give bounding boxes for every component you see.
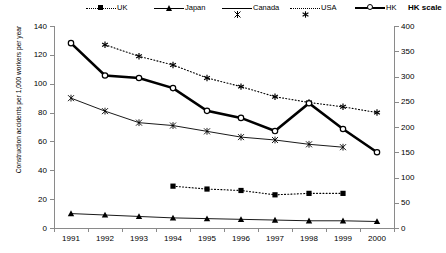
y-axis-left-line [54,26,55,228]
data-point-triangle [204,215,210,221]
series-hk [68,40,379,154]
legend-symbol-uk [86,4,116,13]
data-point-circle [374,150,379,155]
legend-item-japan: Japan [154,0,205,16]
legend-label-japan: Japan [185,4,205,12]
data-point-cross [68,95,74,102]
data-point-triangle [102,212,108,218]
series-plot-area [0,0,446,253]
x-axis-tick-label: 2000 [357,234,397,243]
data-point-asterisk [204,75,210,81]
y-axis-right-tick-label: 200 [401,123,427,132]
x-axis-tick [122,228,123,232]
y-axis-right-tick-label: 350 [401,47,427,56]
legend-label-hk: HK [386,4,396,12]
data-point-square [272,192,277,197]
x-axis-tick [292,228,293,232]
legend-item-usa: USA [290,0,336,16]
y-axis-left-tick [50,113,54,114]
data-point-cross [340,144,346,151]
chart-container: UK Japan Canada [0,0,446,253]
series-usa [102,42,380,116]
data-point-circle [136,75,141,80]
cross-icon [234,4,241,11]
data-point-asterisk [170,62,176,68]
y-axis-right-tick-label: 100 [401,173,427,182]
legend-symbol-japan [154,4,184,13]
data-point-triangle [306,218,312,224]
x-axis-tick [360,228,361,232]
legend-item-uk: UK [86,0,127,16]
data-point-triangle [272,217,278,223]
data-point-triangle [238,216,244,222]
x-axis-tick [88,228,89,232]
data-point-square [170,184,175,189]
data-point-square [204,186,209,191]
data-point-circle [170,85,175,90]
data-point-asterisk [306,99,312,105]
legend-symbol-canada [222,4,252,13]
x-axis-tick [224,228,225,232]
y-axis-title-wrap: Construction accidents per 1,000 workers… [2,36,16,222]
data-point-cross [306,141,312,148]
data-point-triangle [136,213,142,219]
x-axis-tick [326,228,327,232]
data-point-circle [238,115,243,120]
data-point-square [306,191,311,196]
data-point-circle [340,126,345,131]
y-axis-right-tick-label: 150 [401,148,427,157]
y-axis-left-tick [50,170,54,171]
y-axis-right-tick-label: 50 [401,198,427,207]
data-point-cross [102,108,108,115]
data-point-circle [272,128,277,133]
data-point-triangle [68,210,74,216]
x-axis-tick [190,228,191,232]
y-axis-left-tick-label: 0 [21,224,47,233]
y-axis-right-tick [395,228,399,229]
y-axis-right-tick [395,26,399,27]
y-axis-title: Construction accidents per 1,000 workers… [15,20,22,180]
legend-item-hk: HK [355,0,396,16]
y-axis-left-tick-label: 120 [21,50,47,59]
legend-label-uk: UK [117,4,127,12]
legend-symbol-usa [290,4,320,13]
series-japan [68,210,380,224]
data-point-square [238,188,243,193]
data-point-asterisk [340,104,346,110]
y-axis-right-tick [395,152,399,153]
data-point-triangle [340,218,346,224]
y-axis-right-tick-label: 0 [401,224,427,233]
y-axis-left-tick-label: 80 [21,108,47,117]
x-axis-tick [258,228,259,232]
data-point-cross [238,134,244,141]
chart-legend: UK Japan Canada [0,0,446,16]
legend-label-usa: USA [321,4,336,12]
legend-label-canada: Canada [253,4,279,12]
series-canada [68,95,346,151]
y-axis-left-tick [50,84,54,85]
y-axis-left-tick [50,55,54,56]
data-point-triangle [374,218,380,224]
data-point-asterisk [374,109,380,115]
y-axis-left-tick [50,26,54,27]
series-uk [170,184,345,198]
data-point-cross [170,122,176,129]
x-axis-tick [54,228,55,232]
y-axis-right-tick [395,102,399,103]
data-point-circle [306,101,311,106]
data-point-cross [272,137,278,144]
legend-symbol-hk [355,4,385,13]
data-point-circle [204,108,209,113]
y-axis-left-tick-label: 40 [21,166,47,175]
y-axis-left-tick-label: 60 [21,137,47,146]
y-axis-right-tick [395,178,399,179]
x-axis-tick [394,228,395,232]
data-point-circle [68,40,73,45]
data-point-triangle [170,215,176,221]
y-axis-right-tick [395,127,399,128]
data-point-cross [204,128,210,135]
data-point-asterisk [136,53,142,59]
data-point-asterisk [102,42,108,48]
data-point-cross [136,119,142,126]
hk-scale-title: HK scale [408,3,442,12]
